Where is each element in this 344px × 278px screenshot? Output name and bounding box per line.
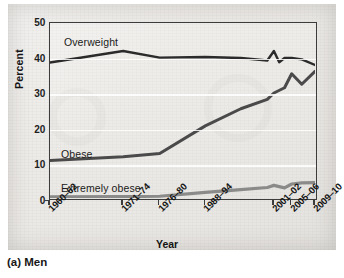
- series-label-obese: Obese: [61, 148, 92, 160]
- y-tick-label-10: 10: [23, 159, 45, 170]
- y-tick-label-40: 40: [23, 52, 45, 63]
- gridline-30: [50, 94, 316, 96]
- y-tick-label-50: 50: [23, 17, 45, 28]
- y-tick-label-20: 20: [23, 123, 45, 134]
- figure-caption: (a) Men: [7, 256, 47, 268]
- gridline-40: [50, 59, 316, 61]
- plot-area: [49, 22, 317, 200]
- gridline-10: [50, 165, 316, 167]
- x-axis-title: Year: [156, 238, 178, 250]
- y-tick-label-30: 30: [23, 88, 45, 99]
- y-tick-label-0: 0: [23, 195, 45, 206]
- series-label-overweight: Overweight: [64, 36, 118, 48]
- gridline-20: [50, 130, 316, 132]
- screenshot-root: Percent 50 40 30 20 10 0 Overweight Obes…: [0, 0, 344, 278]
- series-lines-group: [50, 23, 315, 198]
